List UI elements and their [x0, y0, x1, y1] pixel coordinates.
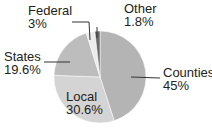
- label-federal: Federal3%: [28, 4, 72, 30]
- label-other: Other1.8%: [124, 2, 157, 28]
- label-local: Local30.6%: [66, 90, 103, 116]
- label-states: States19.6%: [4, 50, 41, 76]
- label-counties: Counties45%: [163, 66, 212, 92]
